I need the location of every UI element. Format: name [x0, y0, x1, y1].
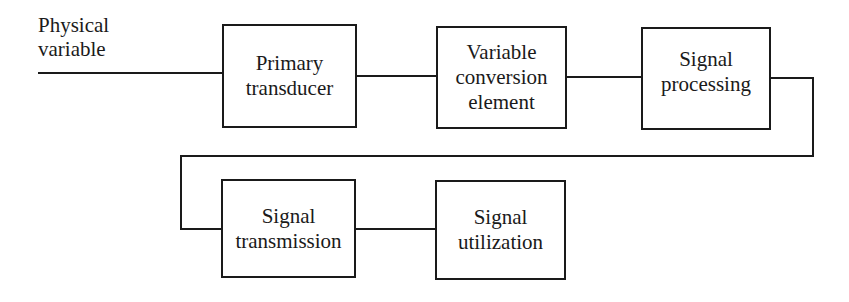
block-signal-transmission: Signal transmission	[221, 179, 356, 278]
wire-conversion-to-processing	[566, 76, 642, 78]
wire-transmission-to-utilization	[354, 228, 436, 230]
input-label-line-1: Physical	[38, 13, 109, 37]
block-label-line: Variable	[467, 40, 537, 65]
wire-left-vertical	[180, 155, 182, 230]
wire-input-to-primary	[38, 72, 223, 74]
input-label-physical-variable: Physical variable	[38, 13, 109, 61]
block-primary-transducer: Primary transducer	[222, 24, 357, 128]
block-variable-conversion-element: Variable conversion element	[436, 26, 567, 129]
block-label-line: Signal	[262, 204, 316, 229]
block-label-line: utilization	[458, 230, 543, 255]
block-label-line: element	[468, 90, 534, 115]
block-signal-utilization: Signal utilization	[435, 180, 566, 280]
wire-processing-out	[770, 77, 814, 79]
block-label-line: Signal	[474, 205, 528, 230]
block-label-line: conversion	[455, 65, 547, 90]
block-label-line: processing	[661, 72, 751, 97]
wire-return-horizontal	[180, 155, 814, 157]
block-signal-processing: Signal processing	[641, 27, 771, 130]
input-label-line-2: variable	[38, 37, 109, 61]
wire-into-transmission	[180, 228, 222, 230]
block-label-line: transducer	[246, 76, 333, 101]
block-label-line: Signal	[679, 47, 733, 72]
block-label-line: Primary	[256, 51, 324, 76]
wire-primary-to-conversion	[356, 75, 437, 77]
wire-right-vertical	[812, 77, 814, 157]
block-label-line: transmission	[235, 229, 341, 254]
